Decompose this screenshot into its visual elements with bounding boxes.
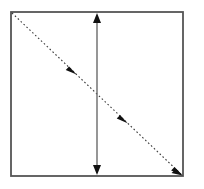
diagonal-arrowheads: [66, 67, 183, 176]
diagram-svg: [0, 0, 204, 189]
vertical-arrowhead-bottom: [93, 165, 101, 175]
diagonal-arrowhead-1: [66, 67, 77, 75]
diagram-canvas: [0, 0, 204, 189]
vertical-arrowhead-top: [93, 13, 101, 23]
diagonal-arrowhead-2: [117, 115, 128, 123]
